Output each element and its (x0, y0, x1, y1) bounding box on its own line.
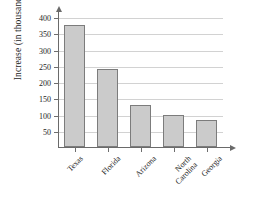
x-axis-label-slot: Arizona (124, 152, 157, 198)
y-axis-arrow-icon (56, 6, 62, 12)
y-axis-tick-label: 400 (39, 14, 51, 23)
y-axis-tick-label: 350 (39, 30, 51, 39)
x-axis-label-slot: North Carolina (157, 152, 190, 198)
x-axis-label: Georgia (200, 154, 224, 178)
x-axis-label-slot: Georgia (190, 152, 223, 198)
y-axis-tick-label: 250 (39, 62, 51, 71)
bar (196, 120, 216, 147)
bar-slot (58, 17, 91, 147)
y-axis-tick-label: 200 (39, 79, 51, 88)
y-axis-tick-label: 300 (39, 46, 51, 55)
bar (130, 105, 150, 147)
x-axis-label: Arizona (134, 154, 159, 179)
bar-slot (91, 17, 124, 147)
y-axis-tick-label: 150 (39, 95, 51, 104)
x-axis-label-slot: Florida (91, 152, 124, 198)
x-axis-arrow-icon (230, 145, 236, 151)
bar-chart: Increase (in thousands) 5010015020025030… (0, 0, 264, 199)
bar (163, 115, 183, 148)
y-axis-tick-label: 50 (43, 127, 51, 136)
bar-slot (124, 17, 157, 147)
bar-slot (190, 17, 223, 147)
x-axis-label: Florida (100, 154, 123, 177)
plot-area: 50100150200250300350400 (58, 18, 223, 148)
bar (97, 69, 117, 147)
y-axis-title: Increase (in thousands) (13, 0, 23, 105)
y-axis-tick-label: 100 (39, 111, 51, 120)
bar-series (58, 17, 223, 147)
bar (64, 25, 84, 147)
x-axis-label-slot: Texas (58, 152, 91, 198)
x-axis-labels: TexasFloridaArizonaNorth CarolinaGeorgia (58, 152, 223, 198)
bar-slot (157, 17, 190, 147)
x-axis-label: Texas (65, 154, 84, 173)
